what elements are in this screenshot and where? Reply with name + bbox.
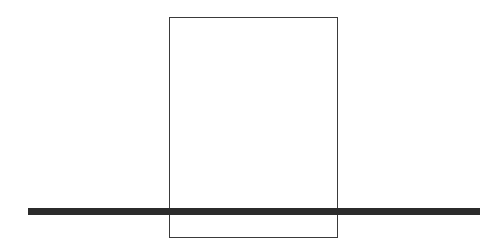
horizontal-bar [28, 208, 480, 215]
rectangle-outline [169, 17, 338, 238]
